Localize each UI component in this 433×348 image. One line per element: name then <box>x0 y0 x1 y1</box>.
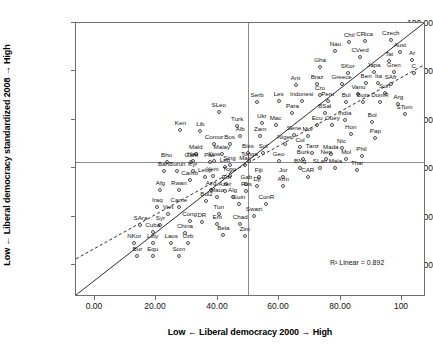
data-point <box>290 111 294 115</box>
data-point-label: Gam <box>184 152 197 159</box>
data-point <box>151 254 155 258</box>
data-point-label: Som <box>172 246 185 253</box>
data-point-label: Serb <box>251 92 264 99</box>
data-point <box>318 166 322 170</box>
data-point-label: Fiji <box>255 167 263 174</box>
data-point-label: SKor <box>341 63 355 70</box>
data-point <box>370 120 374 124</box>
data-point <box>138 223 142 227</box>
data-point-label: Burun <box>169 161 186 168</box>
data-point-label: Czech <box>382 30 400 37</box>
data-point <box>358 55 362 59</box>
data-point <box>344 100 348 104</box>
data-point-label: Cuba <box>145 222 160 229</box>
x-tick-label-80: 80.00 <box>320 301 360 311</box>
data-point-label: Gren <box>387 62 401 69</box>
data-point-label: Chil <box>344 32 355 39</box>
data-point-label: Nau <box>330 40 341 47</box>
data-point <box>200 220 204 224</box>
data-point-label: Ukr <box>257 112 267 119</box>
data-point <box>175 169 179 173</box>
data-point <box>238 134 242 138</box>
data-point-label: Ant <box>291 75 300 82</box>
data-point-label: Afg <box>156 180 165 187</box>
data-point <box>155 205 159 209</box>
data-point <box>177 188 181 192</box>
data-point <box>340 82 344 86</box>
data-point-label: STom <box>397 104 413 111</box>
data-point <box>306 175 310 179</box>
data-point-label: Ar <box>409 50 415 57</box>
data-point <box>412 71 416 75</box>
data-point-label: Ecu <box>312 115 323 122</box>
data-point <box>378 100 382 104</box>
data-point-label: Biss <box>242 143 254 150</box>
data-point-label: Thai <box>351 159 363 166</box>
data-point-label: Rwan <box>171 180 187 187</box>
data-point <box>277 159 281 163</box>
x-tickmark-80 <box>340 296 341 300</box>
data-point <box>333 166 337 170</box>
data-point-label: SLan <box>313 158 327 165</box>
data-point-label: Leb <box>220 157 230 164</box>
data-point-label: DomR <box>371 92 389 99</box>
data-point <box>186 241 190 245</box>
data-point-label: Ita <box>375 73 382 80</box>
data-point-label: Braz <box>311 74 324 81</box>
plot-area: CzechAustCRicaChilNauCVerdArTaiGrenCJapa… <box>75 22 425 296</box>
data-point <box>261 151 265 155</box>
data-point-label: Guin <box>232 194 245 201</box>
data-point-label: CVerd <box>351 46 368 53</box>
data-point-label: BNg <box>294 158 306 165</box>
data-point-label: Mali <box>239 155 250 162</box>
data-point-label: Equ <box>147 246 158 253</box>
data-point-label: Aust <box>394 42 406 49</box>
data-point-label: Bos <box>224 134 235 141</box>
data-point-label: Liby <box>147 233 158 240</box>
data-point <box>277 99 281 103</box>
data-point-label: Phil <box>356 146 366 153</box>
data-point-label: Col <box>295 137 304 144</box>
data-point-label: Tai <box>385 51 393 58</box>
data-point <box>258 134 262 138</box>
data-point-label: Bah <box>158 161 169 168</box>
data-point-label: Dji <box>254 176 261 183</box>
data-point-label: Lebp <box>198 167 212 174</box>
data-point <box>306 134 310 138</box>
data-point-label: Mor <box>302 126 313 133</box>
data-point-label: Kyr <box>188 161 197 168</box>
data-point-label: Nep <box>321 149 332 156</box>
data-point-label: Bur <box>133 246 143 253</box>
data-point-label: Cong <box>182 211 197 218</box>
x-tickmark-100 <box>401 296 402 300</box>
data-point-label: SLeo <box>212 102 226 109</box>
data-point-label: Suri <box>379 82 390 89</box>
data-point <box>243 234 247 238</box>
data-point-label: CRica <box>356 31 373 38</box>
data-point-label: Ben <box>361 73 372 80</box>
data-point-label: Bul2 <box>200 191 212 198</box>
data-point-label: Pak <box>204 152 215 159</box>
data-point <box>294 83 298 87</box>
data-point-label: ConR <box>258 194 274 201</box>
x-tickmark-0 <box>94 296 95 300</box>
data-point <box>333 49 337 53</box>
data-point <box>166 212 170 216</box>
data-point-label: Erit <box>213 213 222 220</box>
data-point <box>215 195 219 199</box>
data-point <box>389 38 393 42</box>
data-point-label: DR <box>197 212 206 219</box>
data-point-label: Peru <box>321 91 334 98</box>
data-point-label: China <box>177 223 193 230</box>
data-point-label: Chad <box>233 213 248 220</box>
data-point <box>162 169 166 173</box>
x-tickmark-60 <box>278 296 279 300</box>
data-point-label: NKor <box>127 233 141 240</box>
data-point <box>300 99 304 103</box>
r-squared-text: R² Linear = 0.892 <box>330 259 384 266</box>
data-point-label: Lib <box>196 121 204 128</box>
y-axis-title: Low ← Liberal democracy standardized 200… <box>2 5 15 305</box>
data-point-label: Bhu <box>161 152 172 159</box>
data-point <box>198 129 202 133</box>
data-point-label: Sol <box>259 143 268 150</box>
